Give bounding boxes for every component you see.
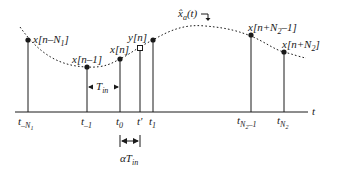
sample-dot-n-plus-N2-minus-1 <box>248 32 253 37</box>
tick-t-prime: t' <box>137 115 143 127</box>
time-axis-label: t <box>312 105 316 117</box>
sample-dot-n-minus-N1 <box>25 37 30 42</box>
tick-t-minus-N1: t–N1 <box>18 115 33 131</box>
tick-t-minus-1: t–1 <box>81 115 92 130</box>
label-x-n-minus-N1: x[n–N1] <box>32 33 69 48</box>
sample-dot-n-plus-N2 <box>281 49 286 54</box>
label-y-n: y[n] <box>127 31 147 43</box>
sample-dot-t1 <box>150 37 155 42</box>
tick-t-N2-minus-1: tN2–1 <box>237 114 256 130</box>
tick-t1: t1 <box>149 115 156 130</box>
sample-dot-n-minus-1 <box>84 64 89 69</box>
tick-t-N2: tN2 <box>277 114 288 130</box>
sample-stems <box>28 35 284 112</box>
output-sample-square <box>138 46 143 51</box>
label-x-n-plus-N2-minus-1: x[n+N2–1] <box>247 21 297 36</box>
label-x-n: x[n] <box>109 43 129 55</box>
label-xhat-a-t: x̂a(t) <box>177 7 198 22</box>
label-alpha-t-in: αTin <box>120 152 138 167</box>
tick-t0: t0 <box>116 115 123 130</box>
label-x-n-minus-1: x[n–1] <box>71 53 102 65</box>
sample-dot-n <box>117 56 122 61</box>
label-x-n-plus-N2: x[n+N2] <box>281 38 320 53</box>
interpolation-diagram: t x[n–N1] x[n–1] x[n] y[n] x[n+N2–1] x[n… <box>0 0 341 173</box>
